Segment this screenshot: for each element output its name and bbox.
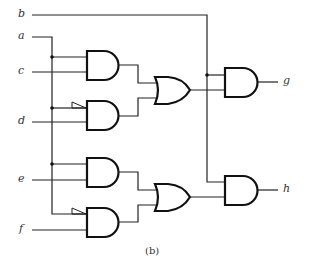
input-label-b: b [18, 8, 25, 19]
and-gate-3 [87, 158, 119, 187]
input-label-c: c [18, 65, 24, 76]
wire-b [32, 15, 225, 182]
inverter-icon [72, 102, 87, 108]
and-gate-h [225, 176, 258, 205]
input-label-a: a [18, 30, 25, 41]
wire-and2-or1 [118, 98, 157, 116]
figure-caption: (b) [145, 245, 159, 256]
and-gate-2 [87, 101, 119, 130]
and-gate-g [225, 68, 258, 97]
wire-and1-or1 [118, 65, 157, 83]
inverter-icon [72, 208, 87, 214]
wire-a [32, 37, 87, 214]
wire-and3-or2 [118, 172, 157, 190]
or-gate-1 [155, 77, 190, 104]
input-label-d: d [18, 115, 25, 126]
output-label-h: h [283, 183, 290, 194]
and-gate-1 [87, 51, 119, 80]
wire-and4-or2 [118, 205, 157, 222]
logic-circuit-diagram [0, 0, 309, 269]
input-label-e: e [18, 173, 25, 184]
and-gate-4 [87, 208, 119, 237]
output-label-g: g [283, 75, 290, 86]
input-label-f: f [19, 223, 23, 234]
or-gate-2 [155, 184, 190, 211]
